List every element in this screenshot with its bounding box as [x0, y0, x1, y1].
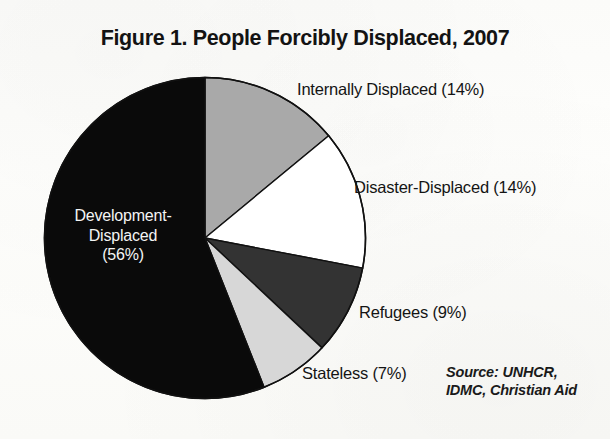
slice-label-refugees: Refugees (9%): [359, 303, 466, 322]
slice-label-internally-displaced: Internally Displaced (14%): [297, 80, 484, 99]
slice-label-stateless: Stateless (7%): [302, 364, 407, 383]
slice-label-development-displaced: Development- Displaced (56%): [48, 206, 198, 265]
source-note-line1: Source: UNHCR,: [446, 363, 577, 381]
source-note: Source: UNHCR, IDMC, Christian Aid: [446, 363, 577, 399]
slice-label-development-displaced-line3: (56%): [48, 245, 198, 265]
slice-label-disaster-displaced: Disaster-Displaced (14%): [354, 178, 536, 197]
slice-label-development-displaced-line1: Development-: [48, 206, 198, 226]
source-note-line2: IDMC, Christian Aid: [446, 381, 577, 399]
chart-title: Figure 1. People Forcibly Displaced, 200…: [0, 26, 610, 51]
slice-label-development-displaced-line2: Displaced: [48, 226, 198, 246]
